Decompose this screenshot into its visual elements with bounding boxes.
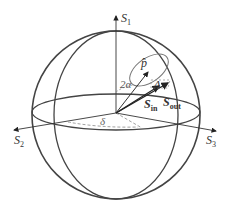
s-out-label: Sout bbox=[163, 96, 181, 110]
delta-small-label: δ bbox=[100, 115, 105, 127]
s2-label: S2 bbox=[14, 134, 24, 148]
delta-cap-label: Δ bbox=[154, 78, 160, 90]
p-hat-label: p̂ bbox=[141, 57, 147, 69]
poincare-sphere-diagram: S1 S2 S3 p̂ 2α Δ δ Sin Sout bbox=[0, 0, 231, 204]
s3-label: S3 bbox=[206, 134, 216, 148]
sphere-graphic bbox=[0, 0, 231, 204]
two-alpha-label: 2α bbox=[120, 78, 131, 90]
s1-label: S1 bbox=[121, 12, 131, 26]
s-in-label: Sin bbox=[144, 98, 157, 112]
